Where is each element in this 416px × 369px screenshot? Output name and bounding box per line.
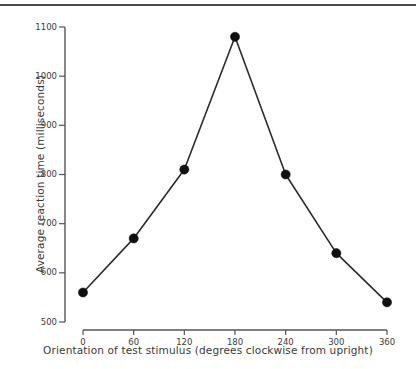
y-tick-label: 800 xyxy=(23,169,57,179)
data-point-marker xyxy=(332,249,341,258)
line-chart-plot xyxy=(0,0,416,369)
data-point-marker xyxy=(78,288,87,297)
data-point-marker xyxy=(180,165,189,174)
figure-canvas: Average reaction time (milliseconds) Ori… xyxy=(0,0,416,369)
x-tick-label: 360 xyxy=(367,337,407,347)
data-point-marker xyxy=(129,234,138,243)
x-tick-label: 180 xyxy=(215,337,255,347)
y-tick-label: 1100 xyxy=(23,22,57,32)
y-tick-label: 700 xyxy=(23,218,57,228)
x-tick-label: 60 xyxy=(114,337,154,347)
y-tick-label: 900 xyxy=(23,120,57,130)
x-tick-label: 240 xyxy=(266,337,306,347)
y-tick-label: 600 xyxy=(23,267,57,277)
x-tick-label: 300 xyxy=(316,337,356,347)
y-tick-label: 1000 xyxy=(23,71,57,81)
series-line xyxy=(83,37,387,303)
data-point-marker xyxy=(382,298,391,307)
axis-ticks-layer xyxy=(59,27,387,335)
x-tick-label: 0 xyxy=(63,337,103,347)
y-tick-label: 500 xyxy=(23,317,57,327)
data-point-marker xyxy=(230,32,239,41)
data-series-layer xyxy=(78,32,391,307)
data-point-marker xyxy=(281,170,290,179)
axes-layer xyxy=(65,27,387,330)
x-tick-label: 120 xyxy=(164,337,204,347)
y-axis-title-container: Average reaction time (milliseconds) xyxy=(0,0,44,330)
